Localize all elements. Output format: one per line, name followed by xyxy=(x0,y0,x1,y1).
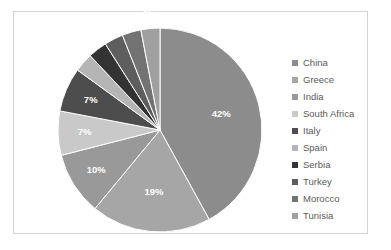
legend-swatch-icon xyxy=(292,213,298,219)
pie-slice-label: 42% xyxy=(212,108,232,119)
legend-swatch-icon xyxy=(292,162,298,168)
pie-slice-label: 19% xyxy=(145,186,165,197)
legend-item-italy[interactable]: Italy xyxy=(292,122,366,139)
legend-item-label: China xyxy=(303,58,328,68)
legend-item-india[interactable]: India xyxy=(292,88,366,105)
legend-swatch-icon xyxy=(292,128,298,134)
pie-slice-label: 3% xyxy=(82,32,96,43)
legend-item-serbia[interactable]: Serbia xyxy=(292,156,366,173)
legend-item-label: Spain xyxy=(303,143,327,153)
pie-slice-label: 3% xyxy=(100,20,114,31)
legend-item-china[interactable]: China xyxy=(292,54,366,71)
legend-item-label: Morocco xyxy=(303,194,339,204)
legend-item-turkey[interactable]: Turkey xyxy=(292,173,366,190)
legend-item-morocco[interactable]: Morocco xyxy=(292,190,366,207)
pie-slice-label: 7% xyxy=(78,126,92,137)
legend-item-spain[interactable]: Spain xyxy=(292,139,366,156)
legend-item-label: South Africa xyxy=(303,109,354,119)
pie-slice-label: 3% xyxy=(66,47,80,58)
legend-swatch-icon xyxy=(292,145,298,151)
legend-item-tunisia[interactable]: Tunisia xyxy=(292,207,366,224)
legend-item-label: India xyxy=(303,92,324,102)
pie-slice-label: 3% xyxy=(121,12,135,23)
legend-swatch-icon xyxy=(292,196,298,202)
pie-slice-label: 3% xyxy=(142,8,156,19)
legend-item-label: Turkey xyxy=(303,177,332,187)
legend-swatch-icon xyxy=(292,111,298,117)
legend-item-label: Tunisia xyxy=(303,211,333,221)
pie-slice-label: 10% xyxy=(87,164,107,175)
legend-item-greece[interactable]: Greece xyxy=(292,71,366,88)
legend-item-label: Greece xyxy=(303,75,334,85)
legend-swatch-icon xyxy=(292,60,298,66)
legend-swatch-icon xyxy=(292,179,298,185)
legend-swatch-icon xyxy=(292,77,298,83)
legend-item-label: Serbia xyxy=(303,160,330,170)
chart-frame: 42%19%10%7%7%3%3%3%3%3% ChinaGreeceIndia… xyxy=(0,0,391,250)
chart-legend: ChinaGreeceIndiaSouth AfricaItalySpainSe… xyxy=(292,54,366,224)
legend-item-south-africa[interactable]: South Africa xyxy=(292,105,366,122)
legend-swatch-icon xyxy=(292,94,298,100)
legend-item-label: Italy xyxy=(303,126,320,136)
pie-slice-label: 7% xyxy=(84,94,98,105)
